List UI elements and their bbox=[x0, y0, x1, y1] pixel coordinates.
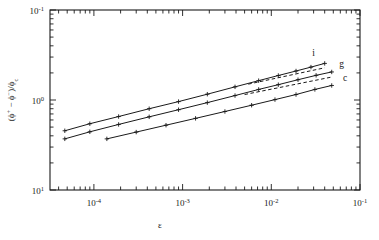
marker-i-9 bbox=[294, 69, 298, 73]
marker-c-8 bbox=[313, 87, 317, 91]
y-tick-label-1: 100 bbox=[32, 94, 44, 106]
marker-g-9 bbox=[296, 78, 300, 82]
x-tick-label-3: 10-1 bbox=[353, 197, 367, 209]
curve-label-i: i bbox=[312, 48, 315, 58]
curve-label-c: c bbox=[343, 73, 347, 83]
x-axis-label: ε bbox=[158, 220, 162, 230]
marker-g-7 bbox=[256, 87, 260, 91]
marker-g-3 bbox=[147, 115, 151, 119]
marker-g-0 bbox=[63, 137, 67, 141]
marker-i-10 bbox=[309, 65, 313, 69]
marker-c-3 bbox=[193, 116, 197, 120]
marker-i-3 bbox=[147, 107, 151, 111]
series-line-g bbox=[65, 72, 332, 139]
marker-c-0 bbox=[105, 137, 109, 141]
axis-ticks bbox=[50, 10, 360, 190]
marker-i-1 bbox=[88, 122, 92, 126]
marker-c-7 bbox=[294, 92, 298, 96]
figure-container: 10-410-310-210-110110010-1ε(ϕ+ − ϕ−)/ϕci… bbox=[0, 0, 379, 240]
plot-frame bbox=[50, 10, 360, 190]
y-tick-label-0: 101 bbox=[32, 184, 44, 196]
series-line-c bbox=[107, 85, 332, 138]
marker-g-4 bbox=[176, 108, 180, 112]
marker-c-4 bbox=[223, 109, 227, 113]
marker-i-11 bbox=[323, 61, 327, 65]
x-tick-label-2: 10-2 bbox=[264, 197, 278, 209]
marker-i-5 bbox=[205, 92, 209, 96]
marker-i-4 bbox=[176, 99, 180, 103]
marker-c-9 bbox=[330, 83, 334, 87]
series-line-g-asymptote bbox=[245, 77, 332, 95]
curve-label-g: g bbox=[339, 59, 344, 69]
data-series-group bbox=[63, 61, 334, 141]
marker-g-11 bbox=[330, 70, 334, 74]
marker-g-2 bbox=[116, 122, 120, 126]
y-tick-label-2: 10-1 bbox=[30, 4, 44, 16]
y-axis-label: (ϕ+ − ϕ−)/ϕc bbox=[5, 79, 19, 122]
marker-i-6 bbox=[233, 85, 237, 89]
marker-g-10 bbox=[314, 73, 318, 77]
y-axis-label-text: (ϕ+ − ϕ−)/ϕc bbox=[5, 79, 19, 122]
marker-c-1 bbox=[134, 130, 138, 134]
marker-g-5 bbox=[205, 100, 209, 104]
marker-c-5 bbox=[249, 103, 253, 107]
marker-i-0 bbox=[63, 129, 67, 133]
x-tick-label-1: 10-3 bbox=[175, 197, 189, 209]
x-tick-label-0: 10-4 bbox=[87, 197, 102, 209]
marker-g-8 bbox=[276, 82, 280, 86]
log-log-plot: 10-410-310-210-110110010-1ε(ϕ+ − ϕ−)/ϕci… bbox=[0, 0, 379, 240]
marker-c-2 bbox=[164, 123, 168, 127]
marker-c-6 bbox=[273, 97, 277, 101]
marker-i-2 bbox=[116, 114, 120, 118]
marker-g-1 bbox=[88, 130, 92, 134]
marker-g-6 bbox=[233, 93, 237, 97]
